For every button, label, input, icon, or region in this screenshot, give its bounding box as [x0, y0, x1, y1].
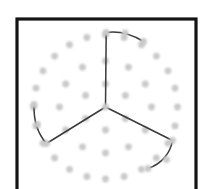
node-top-hub — [103, 29, 110, 36]
node-center-hub — [102, 104, 109, 111]
ring-dot — [125, 64, 132, 71]
ring-dot — [33, 85, 40, 92]
ring-dot — [51, 53, 58, 60]
ring-dot — [82, 92, 89, 99]
ring-dot — [79, 143, 86, 150]
node-top-tip — [140, 38, 147, 45]
node-left-tip — [31, 101, 38, 108]
ring-dot — [125, 143, 132, 150]
ring-dot — [56, 104, 63, 111]
ring-dot — [40, 67, 47, 74]
ring-dot — [138, 166, 145, 173]
ring-dot — [172, 85, 179, 92]
node-right-tip — [145, 165, 152, 172]
ring-dot — [62, 81, 69, 88]
ring-dot — [84, 34, 91, 41]
node-left-hub — [43, 140, 50, 147]
ring-dot — [66, 41, 73, 48]
ring-dot — [66, 166, 73, 173]
ring-dot — [84, 173, 91, 180]
node-right-hub — [169, 137, 176, 144]
node-top-mid — [122, 29, 129, 36]
ring-dot — [102, 127, 109, 134]
ring-dot — [142, 81, 149, 88]
ring-dot — [153, 155, 160, 162]
ring-dot — [51, 155, 58, 162]
ring-dot — [172, 123, 179, 130]
ring-dot — [148, 104, 155, 111]
ring-dot — [102, 150, 109, 157]
ring-dot — [121, 173, 128, 180]
node-left-mid — [34, 121, 41, 128]
ring-dot — [79, 64, 86, 71]
ring-dot — [122, 92, 129, 99]
figure-background — [0, 0, 205, 189]
ring-dot — [102, 176, 109, 183]
figure-canvas — [0, 0, 205, 189]
ring-dot — [165, 67, 172, 74]
figure-container — [0, 0, 205, 189]
ring-dot — [153, 53, 160, 60]
node-right-mid — [163, 156, 170, 163]
ring-dot — [174, 104, 181, 111]
